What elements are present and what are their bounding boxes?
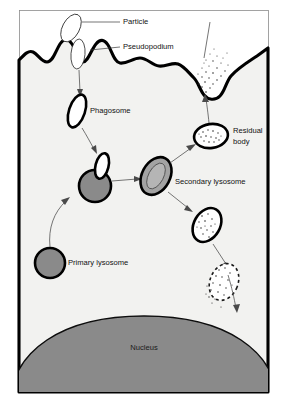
particle-label: Particle bbox=[123, 17, 148, 26]
nucleus-label: Nucleus bbox=[130, 343, 158, 352]
residual-body-label-line2: body bbox=[233, 137, 250, 146]
exocytosis-stipple bbox=[197, 49, 228, 93]
phagocytosis-diagram: Nucleus Particle Pseudopodium Phagosome bbox=[0, 0, 291, 411]
exocytosis-discharge-group bbox=[197, 22, 228, 93]
primary-lysosome-shape bbox=[35, 248, 65, 278]
phagosome-label: Phagosome bbox=[90, 106, 131, 115]
diagram-canvas: Nucleus Particle Pseudopodium Phagosome bbox=[0, 0, 291, 411]
residual-body-label-line1: Residual bbox=[233, 126, 263, 135]
secondary-lysosome-label: Secondary lysosome bbox=[175, 177, 246, 186]
exocytosis-trajectory-line bbox=[204, 22, 210, 58]
primary-lysosome-label: Primary lysosome bbox=[68, 258, 128, 267]
pseudopodium-label: Pseudopodium bbox=[123, 42, 174, 51]
